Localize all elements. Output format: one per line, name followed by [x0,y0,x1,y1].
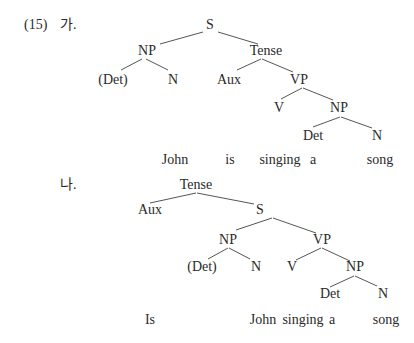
example-label-na: 나. [60,178,77,192]
word: is [225,153,234,167]
example-label-ga: 가. [60,18,77,32]
node-n: N [251,260,261,274]
word: Is [145,313,155,327]
example-number: (15) [24,18,47,32]
node-n: N [168,73,178,87]
node-v: V [274,101,284,115]
node-det-optional: (Det) [187,260,217,274]
node-s: S [256,203,264,217]
node-np-object: NP [346,260,364,274]
node-det: Det [303,129,323,143]
node-n-object: N [378,287,388,301]
node-n-object: N [372,129,382,143]
node-np: NP [219,233,237,247]
node-det-optional: (Det) [98,73,128,87]
word: John [250,313,276,327]
node-tense: Tense [180,178,212,192]
tree-edges [0,0,414,343]
node-aux: Aux [217,73,241,87]
node-np-object: NP [330,101,348,115]
word: song [373,313,399,327]
node-det: Det [320,287,340,301]
word: John [162,153,188,167]
node-v: V [287,260,297,274]
node-tense: Tense [250,44,282,58]
node-vp: VP [290,73,308,87]
word: a [329,313,335,327]
word: singing [259,153,300,167]
node-s: S [206,18,214,32]
node-vp: VP [313,233,331,247]
node-aux: Aux [138,203,162,217]
node-np: NP [138,44,156,58]
word: singing [282,313,323,327]
word: song [367,153,393,167]
word: a [310,153,316,167]
